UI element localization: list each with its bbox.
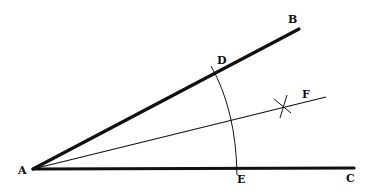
label-C: C — [346, 172, 355, 185]
label-E: E — [237, 173, 245, 186]
label-B: B — [288, 13, 297, 26]
label-F: F — [302, 88, 310, 101]
ray-AB — [33, 29, 299, 169]
arc-DE — [211, 66, 237, 175]
bisector-AF — [33, 97, 326, 169]
label-A: A — [17, 164, 27, 177]
ray-AC — [33, 168, 354, 169]
label-D: D — [217, 54, 227, 67]
angle-bisector-diagram: A B C D E F — [0, 0, 376, 194]
